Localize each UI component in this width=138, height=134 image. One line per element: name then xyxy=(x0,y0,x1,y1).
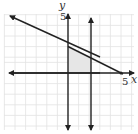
x-axis-label: x xyxy=(131,73,138,86)
x-tick-label-5: 5 xyxy=(122,76,128,87)
coordinate-graph: y 5 5 x xyxy=(0,0,138,134)
boundary-line xyxy=(10,16,100,57)
y-tick-label-5: 5 xyxy=(60,11,66,22)
shaded-region xyxy=(68,47,91,74)
